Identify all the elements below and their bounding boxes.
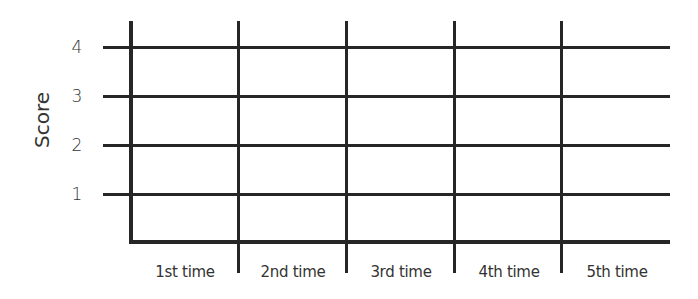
x-tick-1st-time: 1st time [131, 262, 239, 282]
column-divider-1 [237, 21, 240, 273]
column-divider-2 [345, 21, 348, 273]
y-tick-1: 1 [62, 184, 92, 204]
y-axis [129, 21, 133, 244]
y-tick-4: 4 [62, 37, 92, 57]
y-tick-2: 2 [62, 135, 92, 155]
gridline-3 [103, 95, 670, 98]
x-tick-2nd-time: 2nd time [239, 262, 347, 282]
column-divider-3 [453, 21, 456, 273]
x-tick-4th-time: 4th time [455, 262, 563, 282]
gridline-2 [103, 144, 670, 147]
gridline-4 [103, 46, 670, 49]
gridline-1 [103, 193, 670, 196]
score-chart: Score 4 3 2 1 1st time 2nd time 3rd time… [0, 0, 698, 299]
column-divider-4 [560, 21, 563, 273]
x-tick-3rd-time: 3rd time [347, 262, 455, 282]
x-axis [129, 240, 670, 244]
y-axis-label: Score [30, 92, 54, 148]
x-tick-5th-time: 5th time [563, 262, 671, 282]
y-tick-3: 3 [62, 86, 92, 106]
